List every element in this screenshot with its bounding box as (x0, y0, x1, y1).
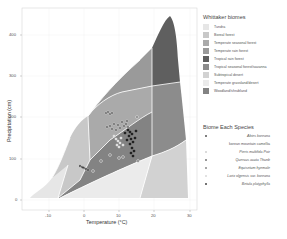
x-tick-30: 30 (187, 213, 192, 218)
point-marker-icon (203, 181, 209, 187)
species-legend: Biome Each Species Abies koreana korean … (203, 124, 270, 188)
x-tick-neg10: -10 (45, 213, 51, 218)
swatch-temperate-seasonal-forest (203, 40, 209, 46)
legend-item-temperate-grassland: Temperate grassland/desert (203, 79, 267, 87)
point-marker-icon (203, 165, 209, 171)
legend-item-korean-mountain-camellia: korean mountain camellia (203, 140, 270, 148)
y-tick-100: 100 (9, 156, 16, 161)
legend-item-boreal-forest: Boreal forest (203, 31, 267, 39)
legend-item-larix-olgensis: Larix olgensis var. koreana (203, 172, 270, 180)
point-marker-icon (203, 133, 209, 139)
x-tick-10: 10 (116, 213, 121, 218)
swatch-temperate-rain-forest (203, 48, 209, 54)
swatch-tropical-seasonal-forest (203, 64, 209, 70)
legend-item-subtropical-desert: Subtropical desert (203, 71, 267, 79)
species-legend-title: Biome Each Species (203, 124, 270, 130)
legend-item-abies-koreana: Abies koreana (203, 132, 270, 140)
legend-item-woodland-shrubland: Woodland/shrubland (203, 87, 267, 95)
legend-item-equisetum-hyemale: Equisetum hyemale (203, 164, 270, 172)
legend-item-tropical-rain-forest: Tropical rain forest (203, 55, 267, 63)
y-tick-400: 400 (9, 32, 16, 37)
x-tick-0: 0 (83, 213, 85, 218)
y-axis-title: Precipitation (cm) (6, 96, 12, 146)
x-tick-20: 20 (151, 213, 156, 218)
legend-item-tundra: Tundra (203, 23, 267, 31)
swatch-boreal-forest (203, 32, 209, 38)
swatch-tropical-rain-forest (203, 56, 209, 62)
legend-item-quercus-acuta: Quercus acuta Thunb (203, 156, 270, 164)
swatch-subtropical-desert (203, 72, 209, 78)
point-marker-icon (203, 173, 209, 179)
y-tick-300: 300 (9, 73, 16, 78)
legend-item-betula-platyphylla: Betula platyphylla (203, 180, 270, 188)
biome-legend-title: Whittaker biomes (203, 14, 267, 20)
biome-legend: Whittaker biomes Tundra Boreal forest Te… (203, 14, 267, 95)
legend-item-temperate-seasonal-forest: Temperate seasonal forest (203, 39, 267, 47)
point-marker-icon (203, 149, 209, 155)
swatch-temperate-grassland (203, 80, 209, 86)
x-axis-title: Temperature (°C) (86, 219, 127, 225)
legend-item-temperate-rain-forest: Temperate rain forest (203, 47, 267, 55)
y-tick-0: 0 (15, 197, 17, 202)
point-marker-icon (203, 157, 209, 163)
point-marker-icon (203, 141, 209, 147)
legend-item-tropical-seasonal-forest: Tropical seasonal forest/savanna (203, 63, 267, 71)
swatch-woodland-shrubland (203, 88, 209, 94)
legend-item-pieris-multifida: Pieris multifida Poir (203, 148, 270, 156)
swatch-tundra (203, 24, 209, 30)
